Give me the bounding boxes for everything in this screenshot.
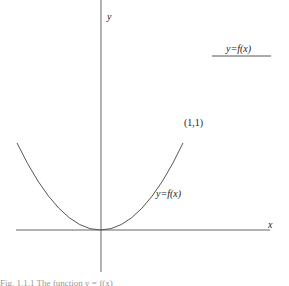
parabola-curve (17, 143, 183, 230)
parabola-diagram: y x (1,1) y=f(x) y=f(x) (0, 0, 289, 286)
x-axis-label: x (267, 219, 273, 230)
y-axis-label: y (106, 11, 112, 22)
endpoint-label: (1,1) (184, 117, 203, 129)
figure-caption: Fig. 1.1.1 The function y = f(x) (0, 278, 289, 286)
legend-label: y=f(x) (225, 43, 252, 55)
curve-label: y=f(x) (155, 188, 182, 200)
